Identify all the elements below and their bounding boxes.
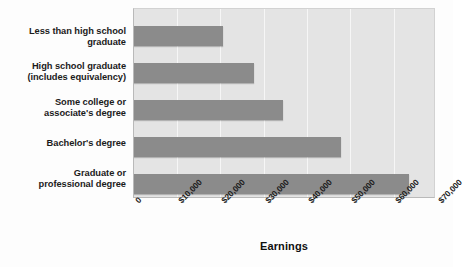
- value-axis-tick-labels: 0 $10,000 $20,000 $30,000 $40,000 $50,00…: [133, 198, 453, 243]
- x-tick-label-70000: $70,000: [436, 177, 464, 205]
- category-label-some-college: Some college or associate's degree: [0, 97, 126, 119]
- category-axis-labels: Less than high school graduate High scho…: [0, 8, 130, 198]
- category-label-line: (includes equivalency): [0, 72, 126, 83]
- gridline: [394, 9, 395, 197]
- gridline: [307, 9, 308, 197]
- bar-bachelors-degree: [134, 137, 341, 157]
- bar-less-than-high-school: [134, 26, 223, 46]
- category-label-line: High school graduate: [0, 61, 126, 72]
- category-label-less-than-high-school: Less than high school graduate: [0, 26, 126, 48]
- category-label-graduate-professional: Graduate or professional degree: [0, 168, 126, 190]
- gridline: [350, 9, 351, 197]
- x-axis-title: Earnings: [133, 240, 435, 252]
- bar-some-college: [134, 100, 283, 120]
- plot-area: [133, 8, 435, 198]
- category-label-bachelors-degree: Bachelor's degree: [0, 138, 126, 149]
- category-label-line: professional degree: [0, 179, 126, 190]
- category-label-high-school-graduate: High school graduate (includes equivalen…: [0, 61, 126, 83]
- category-label-line: Less than high school: [0, 26, 126, 37]
- category-label-line: Bachelor's degree: [0, 138, 126, 149]
- category-label-line: graduate: [0, 37, 126, 48]
- category-label-line: Some college or: [0, 97, 126, 108]
- category-label-line: Graduate or: [0, 168, 126, 179]
- category-label-line: associate's degree: [0, 108, 126, 119]
- bar-high-school-graduate: [134, 63, 254, 83]
